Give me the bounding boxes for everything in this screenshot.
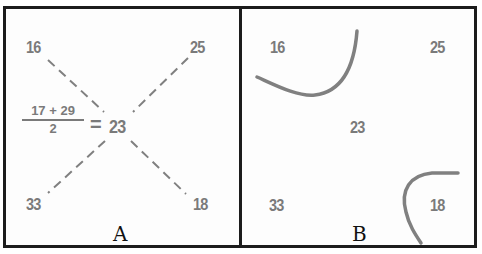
average-formula: 17 + 29 2 [22, 104, 84, 136]
panel-b-bottom-left-number: 33 [269, 196, 283, 216]
panel-a-bottom-right-number: 18 [193, 195, 207, 215]
panel-b-top-left-number: 16 [270, 38, 284, 58]
panel-b-bottom-right-number: 18 [430, 196, 444, 216]
panel-b-label: B [352, 222, 367, 246]
panel-b-center-number: 23 [350, 118, 364, 138]
panel-a-center-number: 23 [109, 116, 125, 138]
formula-denominator: 2 [22, 121, 84, 136]
formula-numerator: 17 + 29 [22, 104, 84, 121]
panel-b-top-right-number: 25 [430, 38, 444, 58]
panel-a-bottom-left-number: 33 [26, 195, 40, 215]
panel-a-label: A [113, 222, 127, 246]
formula-equals: = [90, 113, 102, 136]
panel-a-top-right-number: 25 [190, 38, 204, 58]
panel-a-top-left-number: 16 [26, 38, 40, 58]
